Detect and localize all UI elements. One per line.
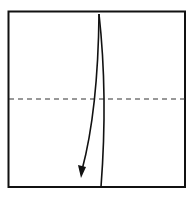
paper-square	[9, 12, 186, 188]
origami-diagram	[0, 0, 193, 199]
